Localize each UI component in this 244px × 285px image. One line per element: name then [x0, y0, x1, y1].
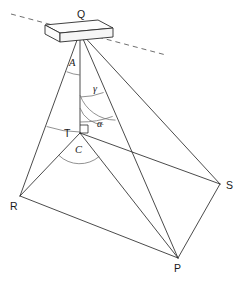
angle-label-alpha: α: [97, 118, 103, 129]
edge-T-S: [80, 133, 220, 184]
edge-Q-S: [80, 32, 220, 184]
edge-T-P: [80, 133, 178, 258]
angle-label-gamma: γ: [93, 83, 98, 94]
vertex-label-T: T: [64, 127, 71, 139]
vertex-label-R: R: [10, 200, 18, 212]
angle-label-C: C: [75, 144, 83, 155]
beam-box: [45, 20, 113, 42]
apex-rays-group: [20, 32, 220, 258]
vertex-label-P: P: [174, 262, 181, 274]
edge-Q-P: [80, 32, 178, 258]
right-angle-marker-T: [80, 125, 88, 133]
edge-R-P: [20, 196, 178, 258]
edge-P-S: [178, 184, 220, 258]
edge-R-T: [20, 133, 80, 196]
arc-angle-A: [67, 72, 80, 75]
arc-angle-C: [59, 155, 100, 163]
vertex-label-Q: Q: [77, 8, 85, 20]
diagram-canvas: Q T R S P A γ α C: [0, 0, 244, 285]
vertex-label-S: S: [226, 179, 233, 191]
angle-label-A: A: [68, 57, 76, 68]
geometry-diagram: Q T R S P A γ α C: [0, 0, 244, 285]
arc-angle-gamma: [80, 93, 104, 98]
